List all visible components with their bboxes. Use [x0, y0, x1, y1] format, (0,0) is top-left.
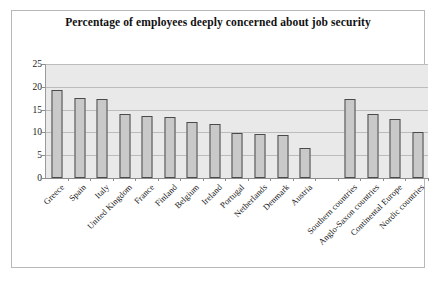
bar-slot: [316, 64, 339, 178]
y-axis-tick-label: 15: [16, 105, 42, 115]
x-axis-tick-mark: [315, 178, 316, 181]
bar[interactable]: [300, 148, 311, 178]
x-axis-tick-label: Austria: [288, 182, 313, 207]
x-axis-line: [45, 178, 428, 179]
bar[interactable]: [187, 122, 198, 178]
x-axis-tick-mark: [383, 178, 384, 181]
bar[interactable]: [232, 133, 243, 178]
y-axis-tick-label: 5: [16, 150, 42, 160]
bar[interactable]: [142, 116, 153, 178]
x-axis-tick-mark: [158, 178, 159, 181]
bar-slot: [114, 64, 137, 178]
bar[interactable]: [412, 132, 423, 178]
bar-slot: [294, 64, 317, 178]
x-axis-tick-mark: [405, 178, 406, 181]
x-axis-tick-mark: [270, 178, 271, 181]
bar-slot: [91, 64, 114, 178]
bar-slot: [226, 64, 249, 178]
chart-figure: Percentage of employees deeply concerned…: [11, 10, 425, 268]
x-axis-tick-mark: [338, 178, 339, 181]
x-axis-tick-label: Greece: [41, 182, 66, 207]
x-axis-tick-label: France: [132, 182, 156, 206]
x-axis-tick-mark: [248, 178, 249, 181]
x-axis-tick-mark: [90, 178, 91, 181]
x-axis-tick-mark: [203, 178, 204, 181]
x-axis-tick-mark: [180, 178, 181, 181]
x-axis-tick-label: Italy: [93, 182, 112, 201]
chart-title: Percentage of employees deeply concerned…: [12, 16, 424, 28]
y-axis-tick-label: 10: [16, 127, 42, 137]
y-axis-tick-label: 20: [16, 82, 42, 92]
x-axis-tick-label: Spain: [67, 182, 88, 203]
bar-slot: [204, 64, 227, 178]
bar[interactable]: [74, 98, 85, 178]
bar-slot: [249, 64, 272, 178]
bar-slot: [181, 64, 204, 178]
bar[interactable]: [119, 114, 130, 178]
x-axis-tick-mark: [68, 178, 69, 181]
bar[interactable]: [345, 99, 356, 178]
x-axis-tick-mark: [293, 178, 294, 181]
bar[interactable]: [97, 99, 108, 178]
bar-slot: [361, 64, 384, 178]
y-axis-tick-label: 0: [16, 173, 42, 183]
bar[interactable]: [255, 134, 266, 178]
bar-slot: [339, 64, 362, 178]
y-axis: 0510152025: [12, 64, 42, 178]
bar-slot: [69, 64, 92, 178]
x-axis-tick-mark: [113, 178, 114, 181]
bar[interactable]: [367, 114, 378, 178]
y-axis-tick-label: 25: [16, 59, 42, 69]
x-axis-tick-mark: [225, 178, 226, 181]
x-axis-tick-mark: [360, 178, 361, 181]
x-axis-tick-mark: [135, 178, 136, 181]
bar[interactable]: [390, 119, 401, 178]
bar-slot: [406, 64, 429, 178]
bar[interactable]: [164, 117, 175, 178]
bar[interactable]: [277, 135, 288, 178]
x-axis-tick-mark: [428, 178, 429, 181]
plot-area: [45, 64, 428, 178]
bar-slot: [384, 64, 407, 178]
bar-slot: [271, 64, 294, 178]
bar-slot: [159, 64, 182, 178]
bar-slot: [136, 64, 159, 178]
bar[interactable]: [209, 124, 220, 178]
bar-slot: [46, 64, 69, 178]
bar[interactable]: [52, 90, 63, 178]
